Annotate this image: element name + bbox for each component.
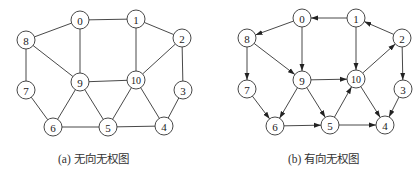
edge-9-10 — [311, 79, 347, 80]
node-4: 4 — [155, 117, 173, 135]
node-2: 2 — [173, 29, 191, 47]
caption-directed-graph: (b) 有向无权图 — [288, 150, 359, 166]
node-label: 0 — [77, 15, 83, 27]
node-10: 10 — [347, 70, 365, 88]
node-6: 6 — [44, 118, 62, 136]
node-9: 9 — [71, 73, 89, 91]
node-2: 2 — [393, 29, 411, 47]
node-label: 5 — [327, 120, 333, 132]
edge-9-6 — [280, 88, 298, 118]
node-label: 3 — [400, 84, 406, 96]
node-label: 4 — [161, 121, 167, 133]
edge-10-4 — [361, 87, 380, 118]
edge-7-6 — [252, 96, 269, 119]
caption-undirected-graph: (a) 无向无权图 — [58, 150, 129, 166]
node-3: 3 — [394, 80, 412, 98]
node-label: 8 — [23, 35, 29, 47]
node-label: 9 — [299, 75, 305, 87]
node-1: 1 — [127, 10, 145, 28]
node-label: 2 — [399, 33, 405, 45]
edge-2-10 — [143, 44, 176, 74]
edge-9-5 — [85, 90, 104, 120]
edge-0-8 — [255, 21, 293, 35]
node-9: 9 — [293, 71, 311, 89]
node-label: 0 — [299, 13, 305, 25]
edge-0-1 — [89, 19, 127, 20]
node-10: 10 — [127, 71, 145, 89]
edge-5-4 — [117, 126, 155, 127]
edge-2-1 — [364, 22, 394, 35]
edge-3-4 — [168, 98, 179, 118]
edge-10-4 — [141, 88, 160, 119]
node-label: 3 — [180, 85, 186, 97]
node-label: 7 — [23, 85, 29, 97]
node-label: 10 — [131, 75, 141, 86]
node-3: 3 — [174, 81, 192, 99]
node-7: 7 — [238, 80, 256, 98]
node-0: 0 — [71, 11, 89, 29]
node-6: 6 — [266, 117, 284, 135]
edge-9-5 — [307, 88, 326, 118]
edge-10-2 — [363, 44, 396, 73]
edge-8-9 — [254, 43, 295, 74]
edge-10-5 — [113, 88, 132, 120]
node-label: 6 — [272, 121, 278, 133]
node-label: 4 — [382, 120, 388, 132]
edge-2-3 — [402, 47, 403, 80]
edge-7-6 — [31, 97, 47, 119]
node-5: 5 — [321, 116, 339, 134]
undirected-unweighted-graph: 012345678910 — [17, 10, 192, 136]
node-8: 8 — [17, 31, 35, 49]
node-label: 2 — [179, 33, 185, 45]
edge-8-9 — [33, 46, 73, 77]
node-label: 10 — [351, 74, 361, 85]
node-1: 1 — [347, 9, 365, 27]
node-label: 8 — [244, 33, 250, 45]
edge-3-4 — [389, 97, 399, 117]
edge-1-2 — [144, 22, 173, 34]
node-label: 1 — [133, 14, 139, 26]
edge-2-3 — [182, 47, 183, 81]
node-label: 9 — [77, 77, 83, 89]
node-0: 0 — [293, 9, 311, 27]
directed-unweighted-graph: 012345678910 — [238, 9, 412, 135]
node-7: 7 — [17, 81, 35, 99]
edge-6-5 — [284, 125, 321, 126]
node-label: 1 — [353, 13, 359, 25]
node-8: 8 — [238, 29, 256, 47]
edge-9-10 — [89, 80, 127, 81]
node-label: 7 — [244, 84, 250, 96]
node-4: 4 — [376, 116, 394, 134]
edge-5-10 — [334, 87, 351, 117]
edge-9-6 — [58, 90, 76, 120]
node-label: 5 — [105, 122, 111, 134]
node-5: 5 — [99, 118, 117, 136]
node-label: 6 — [50, 122, 56, 134]
edge-0-8 — [34, 23, 71, 37]
